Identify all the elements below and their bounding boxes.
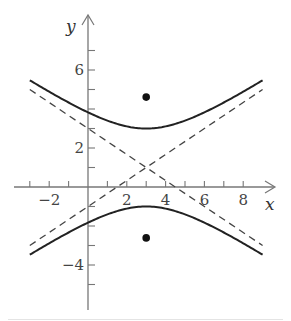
x-tick-label: 4 <box>161 191 171 209</box>
y-tick-label: −4 <box>62 256 84 274</box>
lower-branch-curve <box>30 207 263 255</box>
y-tick-label: 6 <box>74 61 84 79</box>
y-axis-label: y <box>65 16 76 36</box>
axes <box>14 15 275 310</box>
focus-point <box>142 234 150 242</box>
tick-marks <box>30 51 243 285</box>
hyperbola-branches <box>30 80 263 254</box>
hyperbola-plot: −22468−426 y x <box>0 0 291 321</box>
tick-labels: −22468−426 <box>38 61 248 274</box>
x-tick-label: 2 <box>122 191 132 209</box>
x-axis-label: x <box>265 194 275 214</box>
asymptotes <box>30 90 263 246</box>
x-tick-label: −2 <box>38 191 60 209</box>
focus-point <box>142 93 150 101</box>
bottom-divider <box>8 319 283 320</box>
x-tick-label: 8 <box>238 191 248 209</box>
upper-branch-curve <box>30 80 263 128</box>
foci-points <box>142 93 150 241</box>
y-tick-label: 2 <box>74 139 84 157</box>
